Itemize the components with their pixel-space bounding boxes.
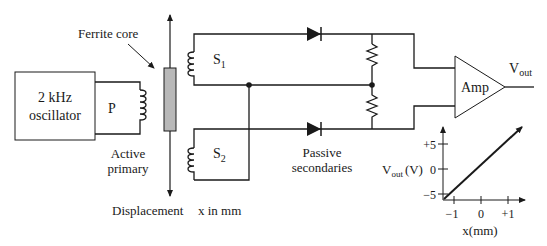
oscillator-label-line1: 2 kHz — [38, 90, 72, 105]
vout-label: Vout — [509, 61, 532, 78]
amplifier-label: Amp — [461, 80, 489, 95]
resistor-bottom-icon — [367, 85, 377, 129]
s2-label: S2 — [213, 146, 226, 164]
primary-caption-line1: Active — [111, 146, 146, 161]
displacement-label: Displacement — [112, 203, 184, 218]
primary-coil-icon — [140, 90, 146, 126]
resistor-top-icon — [367, 44, 377, 85]
displacement-rod — [164, 15, 176, 196]
resistor-network — [362, 34, 455, 129]
primary-coil-label: P — [108, 101, 116, 116]
x-axis-label: x(mm) — [462, 223, 497, 238]
y-axis-label: Vout(V) — [382, 162, 423, 179]
displacement-unit: x in mm — [198, 203, 241, 218]
ferrite-core-label: Ferrite core — [78, 26, 139, 41]
primary-caption-line2: primary — [107, 161, 149, 176]
transfer-chart: +5 0 −5 −1 0 +1 Vout(V) x(mm) — [382, 127, 525, 238]
oscillator-block: 2 kHz oscillator — [15, 72, 95, 140]
vout-line — [444, 127, 522, 199]
y-tick-label: +5 — [423, 138, 436, 152]
y-tick-label: −5 — [423, 188, 436, 202]
lvdt-diagram: 2 kHz oscillator P Active primary Ferrit… — [0, 0, 547, 246]
diode-top-icon — [307, 27, 321, 41]
junction-dot — [246, 82, 252, 88]
oscillator-label-line2: oscillator — [29, 108, 81, 123]
ferrite-core-pointer-icon — [128, 44, 154, 68]
ferrite-core — [164, 68, 176, 131]
diode-bottom-icon — [307, 122, 321, 136]
secondaries-caption-line2: secondaries — [292, 160, 353, 175]
x-tick-label: −1 — [446, 207, 459, 221]
x-tick-label: 0 — [478, 207, 484, 221]
amplifier: Amp — [455, 56, 534, 118]
junction-dot — [369, 82, 375, 88]
primary-circuit — [95, 82, 146, 134]
secondaries-caption-line1: Passive — [303, 145, 342, 160]
y-tick-label: 0 — [430, 163, 436, 177]
s1-label: S1 — [213, 52, 226, 70]
s1-coil-icon — [188, 52, 194, 84]
x-tick-label: +1 — [502, 207, 515, 221]
s2-coil-icon — [188, 148, 194, 180]
